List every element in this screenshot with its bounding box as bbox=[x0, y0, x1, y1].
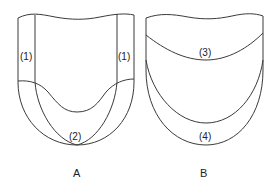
diagram-canvas: (1) (1) (2) A (3) (4) B bbox=[0, 0, 277, 184]
panel-a: (1) (1) (2) A bbox=[18, 14, 134, 179]
label-region-2: (2) bbox=[69, 131, 81, 142]
panel-b-outline bbox=[146, 14, 263, 145]
caption-a: A bbox=[73, 167, 81, 179]
panel-b: (3) (4) B bbox=[146, 14, 263, 179]
label-region-4: (4) bbox=[199, 131, 211, 142]
label-region-1-left: (1) bbox=[20, 51, 32, 62]
panel-a-right-divider bbox=[77, 14, 117, 145]
label-region-1-right: (1) bbox=[118, 51, 130, 62]
panel-a-left-divider bbox=[35, 15, 77, 145]
label-region-3: (3) bbox=[199, 47, 211, 58]
caption-b: B bbox=[200, 167, 207, 179]
panel-b-inner-curve bbox=[146, 60, 263, 123]
